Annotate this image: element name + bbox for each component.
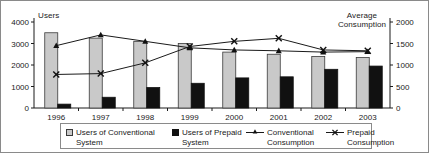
black-square-icon bbox=[172, 129, 179, 136]
legend-item-conventional-consumption[interactable]: Conventional Consumption bbox=[246, 128, 314, 147]
bar-conventional-users bbox=[134, 41, 147, 108]
legend-item-conventional-users[interactable]: Users of Conventional System bbox=[66, 128, 155, 147]
bar-prepaid-users bbox=[369, 66, 382, 108]
x-axis-tick-label: 2003 bbox=[359, 113, 377, 122]
plot-area: 0100020003000400005001000150020001996199… bbox=[0, 0, 431, 122]
left-axis-tick-label: 1000 bbox=[11, 83, 29, 92]
legend-label-conventional-consumption: Conventional Consumption bbox=[267, 128, 314, 147]
x-axis-tick-label: 1996 bbox=[47, 113, 65, 122]
bar-conventional-users bbox=[267, 54, 280, 108]
left-axis-tick-label: 2000 bbox=[11, 61, 29, 70]
x-axis-tick-label: 2000 bbox=[225, 113, 243, 122]
x-axis-tick-label: 1999 bbox=[181, 113, 199, 122]
right-axis-tick-label: 0 bbox=[396, 104, 401, 113]
left-axis-tick-label: 0 bbox=[25, 104, 30, 113]
legend-label-conventional-users: Users of Conventional System bbox=[76, 128, 155, 147]
bar-conventional-users bbox=[178, 44, 191, 109]
right-axis-tick-label: 1500 bbox=[396, 40, 414, 49]
x-axis-tick-label: 2002 bbox=[314, 113, 332, 122]
left-axis-tick-label: 3000 bbox=[11, 40, 29, 49]
line-x-icon bbox=[326, 128, 344, 137]
grey-square-icon bbox=[66, 129, 73, 136]
left-axis-tick-label: 4000 bbox=[11, 18, 29, 27]
legend-item-prepaid-users[interactable]: Users of Prepaid System bbox=[172, 128, 242, 147]
legend-label-prepaid-users: Users of Prepaid System bbox=[182, 128, 242, 147]
bar-prepaid-users bbox=[191, 83, 204, 108]
right-axis-tick-label: 1000 bbox=[396, 61, 414, 70]
bar-prepaid-users bbox=[102, 97, 115, 108]
bar-conventional-users bbox=[312, 56, 325, 108]
marker-triangle bbox=[98, 32, 104, 38]
right-axis-tick-label: 500 bbox=[396, 83, 410, 92]
chart-legend: Users of Conventional System Users of Pr… bbox=[60, 123, 372, 149]
bar-prepaid-users bbox=[325, 69, 338, 108]
bar-conventional-users bbox=[356, 57, 369, 108]
x-axis-tick-label: 1997 bbox=[92, 113, 110, 122]
bar-conventional-users bbox=[223, 52, 236, 108]
line-triangle-icon bbox=[246, 128, 264, 137]
bar-prepaid-users bbox=[280, 77, 293, 108]
chart-container: Users Average Consumption 01000200030004… bbox=[0, 0, 431, 155]
x-axis-tick-label: 2001 bbox=[270, 113, 288, 122]
legend-item-prepaid-consumption[interactable]: Prepaid Consumption bbox=[326, 128, 394, 147]
right-axis-tick-label: 2000 bbox=[396, 18, 414, 27]
bar-prepaid-users bbox=[236, 78, 249, 108]
legend-label-prepaid-consumption: Prepaid Consumption bbox=[347, 128, 394, 147]
bar-prepaid-users bbox=[58, 104, 71, 108]
x-axis-tick-label: 1998 bbox=[136, 113, 154, 122]
bar-prepaid-users bbox=[147, 88, 160, 108]
